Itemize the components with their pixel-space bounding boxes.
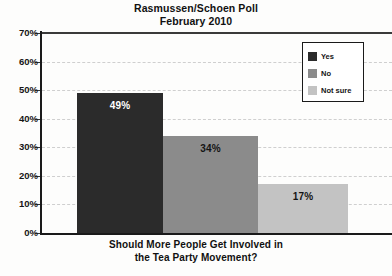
- bar-not-sure[interactable]: 17%: [258, 184, 348, 233]
- y-axis-label-10: 10%: [2, 198, 38, 209]
- chart-title-block: Rasmussen/Schoen Poll February 2010: [0, 2, 392, 28]
- legend-swatch-icon-not-sure: [308, 86, 317, 95]
- legend-label-not-sure: Not sure: [321, 86, 351, 95]
- y-axis-label-20: 20%: [2, 170, 38, 181]
- caption-line-2: the Tea Party Movement?: [0, 251, 392, 264]
- chart-legend: YesNoNot sure: [302, 42, 364, 102]
- caption-line-1: Should More People Get Involved in: [0, 238, 392, 251]
- bar-value-label-yes: 49%: [77, 100, 163, 111]
- legend-item-no[interactable]: No: [308, 65, 363, 82]
- bar-yes[interactable]: 49%: [77, 93, 163, 233]
- y-axis-label-70: 70%: [2, 27, 38, 38]
- legend-swatch-icon-yes: [308, 52, 317, 61]
- y-axis-label-60: 60%: [2, 56, 38, 67]
- legend-label-no: No: [321, 69, 331, 78]
- bar-value-label-no: 34%: [163, 143, 258, 154]
- y-axis-label-0: 0%: [2, 227, 38, 238]
- x-axis-line: [40, 233, 392, 235]
- legend-swatch-icon-no: [308, 69, 317, 78]
- y-axis-label-50: 50%: [2, 84, 38, 95]
- legend-item-not-sure[interactable]: Not sure: [308, 82, 363, 99]
- legend-label-yes: Yes: [321, 52, 334, 61]
- y-axis-label-30: 30%: [2, 141, 38, 152]
- chart-page: Rasmussen/Schoen Poll February 2010 0%10…: [0, 0, 392, 276]
- bar-no[interactable]: 34%: [163, 136, 258, 233]
- legend-item-yes[interactable]: Yes: [308, 48, 363, 65]
- chart-subtitle: February 2010: [0, 15, 392, 28]
- y-axis-label-40: 40%: [2, 113, 38, 124]
- chart-caption: Should More People Get Involved in the T…: [0, 238, 392, 264]
- bar-value-label-not-sure: 17%: [258, 191, 348, 202]
- chart-title: Rasmussen/Schoen Poll: [0, 2, 392, 15]
